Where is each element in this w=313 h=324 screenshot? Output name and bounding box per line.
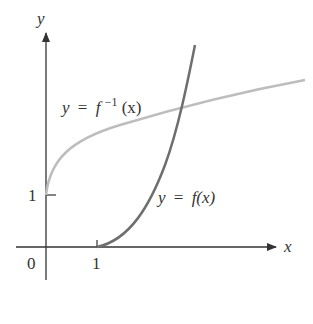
x-axis-label: x	[283, 237, 292, 256]
y-axis-label: y	[35, 9, 45, 28]
function-inverse-diagram: y x 0 1 1 y = f −1 (x) y = f(x)	[0, 0, 313, 324]
origin-label: 0	[27, 254, 36, 273]
function-curve	[97, 45, 195, 247]
x-tick-label: 1	[92, 254, 101, 273]
function-label: y = f(x)	[156, 188, 216, 207]
inverse-function-label: y = f −1 (x)	[60, 91, 141, 117]
y-tick-label: 1	[28, 186, 37, 205]
